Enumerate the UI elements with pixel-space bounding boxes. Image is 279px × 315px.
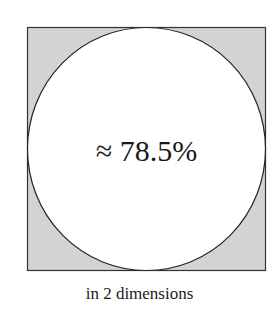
caption: in 2 dimensions bbox=[0, 284, 279, 304]
circle-in-square-diagram: ≈ 78.5% in 2 dimensions bbox=[0, 0, 279, 315]
area-ratio-label: ≈ 78.5% bbox=[27, 134, 266, 168]
